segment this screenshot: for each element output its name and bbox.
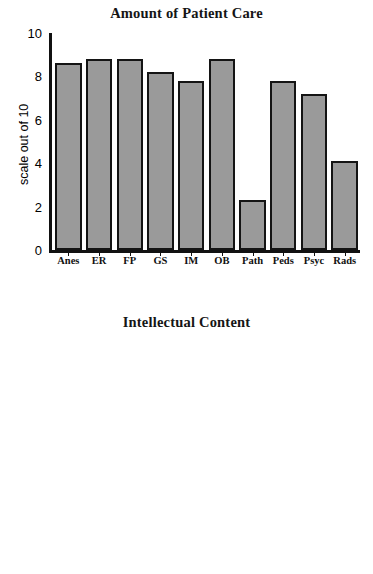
bar-slot (207, 33, 238, 250)
x-axis-ticks: AnesERFPGSIMOBPathPedsPsycRads (53, 255, 360, 266)
x-tick-mark (283, 252, 284, 256)
bar-slot (145, 33, 176, 250)
bar[interactable] (301, 94, 327, 250)
bar[interactable] (86, 59, 112, 250)
x-tick-label: Rads (329, 255, 360, 266)
bar[interactable] (239, 200, 265, 250)
bar-slot (299, 33, 330, 250)
y-tick-label: 10 (28, 27, 42, 40)
bar-slot (329, 33, 360, 250)
figure-page: Amount of Patient Care scale out of 10 1… (0, 0, 373, 574)
bar-group (53, 33, 360, 250)
bar-slot (176, 33, 207, 250)
x-tick-mark (222, 252, 223, 256)
plot-area: 1086420 AnesERFPGSIMOBPathPedsPsycRads (49, 33, 360, 250)
x-tick-label: Peds (268, 255, 299, 266)
bar-slot (53, 33, 84, 250)
x-tick-mark (130, 252, 131, 256)
bar[interactable] (331, 161, 357, 250)
x-tick-label: Psyc (299, 255, 330, 266)
x-tick-mark (314, 252, 315, 256)
chart-amount-of-patient-care: Amount of Patient Care scale out of 10 1… (0, 0, 373, 290)
x-tick-label: OB (207, 255, 238, 266)
bar-slot (84, 33, 115, 250)
x-tick-mark (160, 252, 161, 256)
bar[interactable] (55, 63, 81, 250)
x-tick-mark (191, 252, 192, 256)
x-tick-mark (345, 252, 346, 256)
x-tick-mark (99, 252, 100, 256)
x-tick-label: FP (114, 255, 145, 266)
x-tick-label: ER (84, 255, 115, 266)
y-tick-label: 4 (35, 157, 42, 170)
chart-title: Amount of Patient Care (0, 5, 373, 22)
y-tick-label: 0 (35, 244, 42, 257)
y-tick-label: 6 (35, 113, 42, 126)
x-tick-label: Anes (53, 255, 84, 266)
x-tick-mark (253, 252, 254, 256)
y-tick-label: 8 (35, 70, 42, 83)
y-axis-label: scale out of 10 (17, 104, 31, 185)
bar[interactable] (209, 59, 235, 250)
y-axis-line (49, 33, 52, 250)
x-tick-label: IM (176, 255, 207, 266)
bar[interactable] (270, 81, 296, 250)
bar-slot (268, 33, 299, 250)
bar-slot (114, 33, 145, 250)
bar[interactable] (178, 81, 204, 250)
chart-title: Intellectual Content (0, 314, 373, 331)
chart-intellectual-content: Intellectual Content scale out of 10 108… (0, 290, 373, 574)
bar[interactable] (117, 59, 143, 250)
y-tick-label: 2 (35, 200, 42, 213)
x-tick-label: GS (145, 255, 176, 266)
x-tick-mark (68, 252, 69, 256)
x-tick-label: Path (237, 255, 268, 266)
bar-slot (237, 33, 268, 250)
bar[interactable] (147, 72, 173, 250)
